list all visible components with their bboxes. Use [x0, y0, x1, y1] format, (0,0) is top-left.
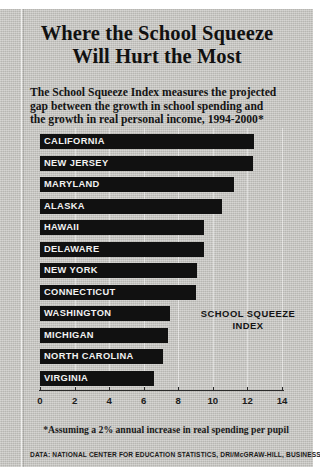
- figure: Where the School Squeeze Will Hurt the M…: [0, 0, 313, 476]
- x-tick: [247, 387, 248, 390]
- bar-label: NORTH CAROLINA: [44, 349, 134, 364]
- bar-california: CALIFORNIA: [40, 134, 254, 149]
- x-tick-label: 4: [97, 395, 121, 406]
- x-tick-label: 6: [132, 395, 156, 406]
- bar-label: NEW YORK: [44, 263, 98, 278]
- x-axis-line: [39, 390, 284, 391]
- bar-alaska: ALASKA: [40, 199, 222, 214]
- gridline: [282, 128, 283, 390]
- bar-washington: WASHINGTON: [40, 306, 170, 321]
- bar-connecticut: CONNECTICUT: [40, 285, 196, 300]
- x-tick: [109, 387, 110, 390]
- x-tick-label: 14: [270, 395, 294, 406]
- x-tick-label: 2: [63, 395, 87, 406]
- plot-area: CALIFORNIANEW JERSEYMARYLANDALASKAHAWAII…: [0, 0, 313, 458]
- bar-virginia: VIRGINIA: [40, 371, 154, 386]
- x-tick-label: 12: [235, 395, 259, 406]
- axis-title-annotation: SCHOOL SQUEEZE INDEX: [196, 308, 300, 331]
- bar-label: CONNECTICUT: [44, 285, 116, 300]
- bar-label: MICHIGAN: [44, 328, 94, 343]
- bar-hawaii: HAWAII: [40, 220, 204, 235]
- bar-michigan: MICHIGAN: [40, 328, 168, 343]
- bar-label: DELAWARE: [44, 242, 100, 257]
- bar-label: MARYLAND: [44, 177, 100, 192]
- axis-title-line2: INDEX: [196, 320, 300, 332]
- bar-label: NEW JERSEY: [44, 156, 108, 171]
- x-tick: [282, 387, 283, 390]
- source-line-wrap: DATA: NATIONAL CENTER FOR EDUCATION STAT…: [30, 443, 302, 461]
- bar-new-york: NEW YORK: [40, 263, 197, 278]
- x-tick: [178, 387, 179, 390]
- x-tick-label: 10: [201, 395, 225, 406]
- x-tick: [213, 387, 214, 390]
- bar-label: CALIFORNIA: [44, 134, 105, 149]
- x-tick-label: 8: [166, 395, 190, 406]
- bar-maryland: MARYLAND: [40, 177, 234, 192]
- bar-delaware: DELAWARE: [40, 242, 204, 257]
- x-tick-label: 0: [28, 395, 52, 406]
- axis-title-line1: SCHOOL SQUEEZE: [196, 308, 300, 320]
- x-tick: [75, 387, 76, 390]
- bar-new-jersey: NEW JERSEY: [40, 156, 253, 171]
- bar-label: ALASKA: [44, 199, 85, 214]
- bar-label: VIRGINIA: [44, 371, 88, 386]
- bar-label: HAWAII: [44, 220, 79, 235]
- footnote: *Assuming a 2% annual increase in real s…: [30, 424, 302, 435]
- source-line: DATA: NATIONAL CENTER FOR EDUCATION STAT…: [30, 451, 313, 458]
- x-tick: [144, 387, 145, 390]
- x-tick: [40, 387, 41, 390]
- bar-north-carolina: NORTH CAROLINA: [40, 349, 163, 364]
- bar-label: WASHINGTON: [44, 306, 111, 321]
